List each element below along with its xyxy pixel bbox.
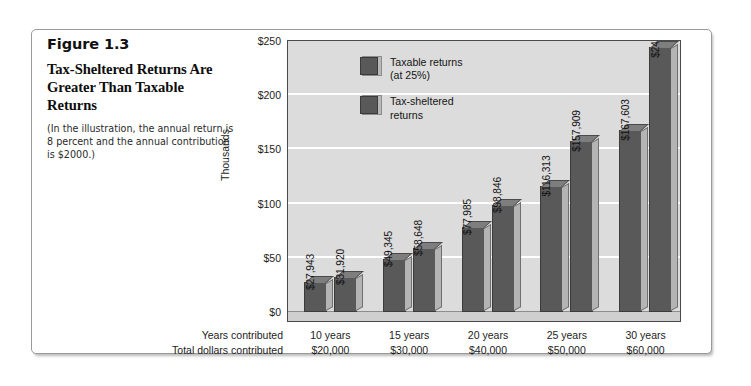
bar-group: $116,313$157,909	[524, 41, 603, 312]
y-axis-tick-label: $100	[237, 198, 281, 210]
x-axis-dollars-label: $30,000	[374, 344, 444, 356]
chart-region: Thousands $250$200$150$100$50$0 $27,943$…	[225, 33, 687, 349]
bar: $58,648	[413, 248, 436, 312]
bar: $77,985	[462, 227, 485, 312]
y-axis-tick-label: $150	[237, 143, 281, 155]
bar-side-face	[435, 245, 442, 311]
x-axis-years-label: 10 years	[295, 329, 365, 341]
bar-value-label: $49,345	[383, 230, 394, 266]
legend-item: Taxable returns (at 25%)	[360, 57, 462, 82]
bar-value-label: $116,313	[541, 155, 552, 196]
figure-note: (In the illustration, the annual return …	[47, 123, 237, 161]
x-axis-dollars-label: $40,000	[453, 344, 523, 356]
bar-side-face	[326, 279, 333, 311]
bar-value-label: $98,846	[492, 177, 503, 213]
legend-label: Tax-sheltered returns	[390, 95, 454, 121]
bar-value-label: $58,648	[413, 220, 424, 256]
x-axis-years-label: 15 years	[374, 329, 444, 341]
x-axis-dollars-label: $20,000	[295, 344, 365, 356]
x-axis-table: Years contributed 10 years15 years20 yea…	[225, 329, 687, 359]
figure-title: Tax-Sheltered Returns Are Greater Than T…	[47, 61, 237, 114]
bar-value-label: $31,920	[335, 249, 346, 285]
bar: $167,603	[619, 130, 642, 312]
bar-side-face	[671, 44, 678, 311]
x-axis-row-title: Years contributed	[43, 329, 283, 341]
bar-value-label: $167,603	[620, 99, 631, 141]
bar: $31,920	[334, 277, 357, 312]
bar-side-face	[641, 127, 648, 311]
bar-side-face	[514, 202, 521, 311]
figure-number: Figure 1.3	[47, 36, 237, 52]
bar-value-label: $244,691	[650, 40, 661, 58]
caption-block: Figure 1.3 Tax-Sheltered Returns Are Gre…	[47, 36, 237, 162]
plot-floor	[288, 311, 680, 321]
y-axis-tick-label: $50	[237, 252, 281, 264]
bar: $157,909	[570, 141, 593, 312]
legend-item: Tax-sheltered returns	[360, 96, 462, 121]
bar: $98,846	[492, 205, 515, 312]
plot-area: $27,943$31,920$49,345$58,648$77,985$98,8…	[287, 40, 681, 322]
bar-value-label: $157,909	[571, 110, 582, 152]
x-axis-years-label: 20 years	[453, 329, 523, 341]
bar: $244,691	[649, 47, 672, 312]
legend-label: Taxable returns (at 25%)	[390, 56, 462, 82]
y-axis-tick-label: $200	[237, 89, 281, 101]
bar-side-face	[356, 274, 363, 311]
x-axis-dollars-label: $50,000	[532, 344, 602, 356]
legend-swatch	[360, 96, 378, 114]
bar-value-label: $27,943	[305, 254, 316, 290]
bar-group: $27,943$31,920	[288, 41, 367, 312]
bar-side-face	[405, 255, 412, 311]
x-axis-years-label: 25 years	[532, 329, 602, 341]
bar: $27,943	[304, 282, 327, 312]
y-axis-tick-label: $0	[237, 306, 281, 318]
bar: $116,313	[540, 186, 563, 312]
bars-layer: $27,943$31,920$49,345$58,648$77,985$98,8…	[288, 41, 680, 312]
chart-legend: Taxable returns (at 25%)Tax-sheltered re…	[360, 57, 462, 136]
y-axis-ticks: $250$200$150$100$50$0	[225, 33, 281, 323]
legend-swatch	[360, 57, 378, 75]
x-axis-years-label: 30 years	[611, 329, 681, 341]
x-axis-row-title: Total dollars contributed	[43, 344, 283, 356]
bar: $49,345	[383, 259, 406, 312]
bar-side-face	[484, 224, 491, 311]
x-axis-dollars-label: $60,000	[611, 344, 681, 356]
bar-group: $167,603$244,691	[603, 41, 681, 312]
y-axis-tick-label: $250	[237, 35, 281, 47]
bar-side-face	[562, 183, 569, 311]
x-axis-row-dollars: Total dollars contributed $20,000$30,000…	[225, 344, 687, 359]
bar-side-face	[592, 138, 599, 311]
bar-value-label: $77,985	[462, 199, 473, 235]
x-axis-row-years: Years contributed 10 years15 years20 yea…	[225, 329, 687, 344]
